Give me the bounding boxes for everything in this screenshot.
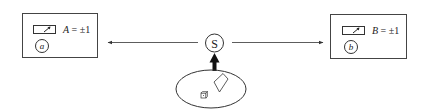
setting-a-label: a bbox=[40, 41, 45, 51]
diagram-canvas: A = ±1 a B = ±1 b S bbox=[0, 0, 427, 112]
detector-b: B = ±1 b bbox=[331, 15, 407, 59]
setting-a-circle: a bbox=[36, 40, 49, 53]
meter-b-icon bbox=[343, 27, 365, 35]
equation-b: B = ±1 bbox=[372, 25, 399, 36]
source-s: S bbox=[206, 34, 224, 52]
setting-b-circle: b bbox=[345, 41, 358, 54]
control-ellipse bbox=[176, 70, 246, 108]
setting-b-label: b bbox=[349, 42, 354, 52]
detector-b-box bbox=[331, 15, 407, 59]
equation-a: A = ±1 bbox=[62, 24, 90, 35]
meter-a-icon bbox=[34, 26, 56, 34]
cup-icon bbox=[214, 74, 228, 93]
ellipse-boundary bbox=[176, 70, 246, 108]
die-icon bbox=[201, 92, 208, 99]
detector-a-box bbox=[23, 14, 98, 58]
source-label: S bbox=[211, 37, 218, 51]
detector-a: A = ±1 a bbox=[23, 14, 98, 58]
control-arrow bbox=[210, 53, 220, 71]
